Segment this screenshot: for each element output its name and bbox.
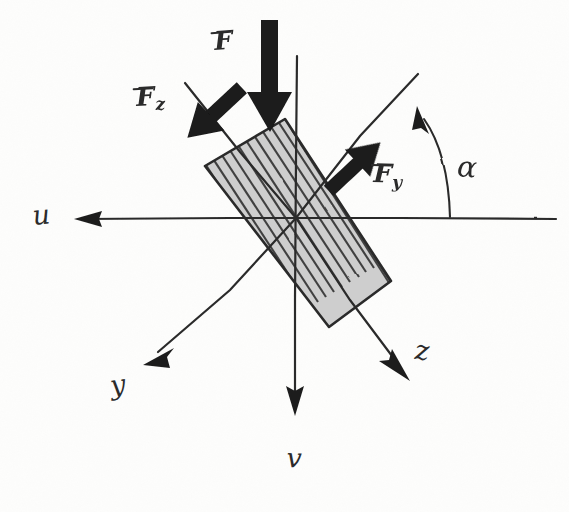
axis-label-u: u — [31, 200, 51, 229]
force-label-Fz-subscript: z — [155, 94, 166, 114]
force-label-Fy: Fy — [373, 160, 403, 191]
axis-u-line — [82, 218, 556, 219]
force-F-shaft — [261, 20, 278, 93]
axis-label-v: v — [286, 444, 302, 472]
force-label-F-text: F — [213, 27, 233, 54]
force-label-Fz: Fz — [135, 83, 165, 115]
diagram-canvas: F Fz Fy α u v y z — [0, 0, 569, 512]
force-label-Fz-text: F — [135, 83, 155, 110]
force-label-Fy-subscript: y — [392, 172, 403, 192]
angle-label-alpha: α — [456, 152, 478, 183]
force-label-F: F — [213, 27, 233, 54]
diagram-svg — [0, 0, 569, 512]
axis-label-z: z — [414, 336, 431, 364]
force-label-Fy-text: F — [373, 160, 392, 187]
